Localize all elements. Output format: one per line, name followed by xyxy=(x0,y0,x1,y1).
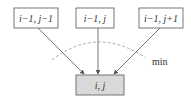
edge-top-right-to-target xyxy=(114,28,160,74)
node-top-middle: i−1, j xyxy=(76,8,114,28)
node-top-middle-label: i−1, j xyxy=(84,13,107,24)
node-top-left: i−1, j−1 xyxy=(14,8,58,28)
edge-top-left-to-target xyxy=(38,28,84,74)
node-top-left-label: i−1, j−1 xyxy=(19,13,53,24)
dp-diagram: i−1, j−1 i−1, j i−1, j+1 i, j min xyxy=(0,0,191,98)
node-target-label: i, j xyxy=(95,80,106,91)
node-top-right-label: i−1, j+1 xyxy=(144,13,178,24)
node-target: i, j xyxy=(76,75,124,95)
min-dashed-arc xyxy=(52,42,146,60)
min-label: min xyxy=(152,56,168,67)
node-top-right: i−1, j+1 xyxy=(139,8,183,28)
